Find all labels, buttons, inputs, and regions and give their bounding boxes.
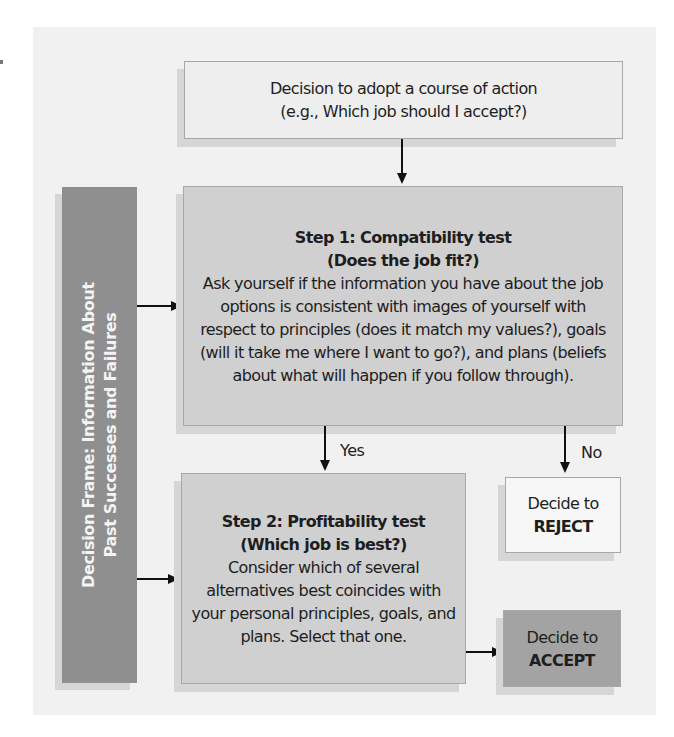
no-label: No — [581, 443, 602, 462]
accept-line2: ACCEPT — [504, 649, 620, 672]
margin-mark — [0, 60, 3, 64]
arrowhead-down-icon — [320, 460, 330, 471]
arrow-step1-no — [564, 426, 566, 464]
yes-label: Yes — [340, 441, 364, 460]
accept-node: Decide to ACCEPT — [503, 610, 621, 687]
arrowhead-right-icon — [492, 647, 503, 657]
arrowhead-right-icon — [168, 574, 179, 584]
arrowhead-down-icon — [397, 173, 407, 184]
arrow-frame-to-step1 — [137, 305, 173, 307]
arrow-decision-to-step1 — [401, 139, 403, 175]
arrowhead-down-icon — [560, 462, 570, 473]
step2-body: Consider which of several alternatives b… — [190, 556, 457, 648]
step2-profitability-node: Step 2: Profitability test (Which job is… — [181, 473, 466, 684]
decision-node: Decision to adopt a course of action (e.… — [184, 61, 623, 139]
decision-frame-line2: Past Successes and Failures — [100, 195, 122, 675]
step2-subtitle: (Which job is best?) — [190, 533, 457, 556]
step1-subtitle: (Does the job fit?) — [198, 249, 608, 272]
decision-node-line1: Decision to adopt a course of action — [185, 77, 622, 100]
step1-body: Ask yourself if the information you have… — [198, 272, 608, 387]
decision-node-line2: (e.g., Which job should I accept?) — [185, 100, 622, 123]
arrow-frame-to-step2 — [137, 578, 170, 580]
decision-frame-line1: Decision Frame: Information About — [78, 195, 100, 675]
arrow-step2-to-accept — [466, 651, 494, 653]
decision-frame-node: Decision Frame: Information About Past S… — [62, 187, 137, 683]
reject-line1: Decide to — [506, 492, 620, 515]
reject-line2: REJECT — [506, 515, 620, 538]
step2-title: Step 2: Profitability test — [190, 510, 457, 533]
step1-title: Step 1: Compatibility test — [198, 226, 608, 249]
arrowhead-right-icon — [171, 301, 182, 311]
accept-line1: Decide to — [504, 626, 620, 649]
step1-compatibility-node: Step 1: Compatibility test (Does the job… — [183, 186, 623, 426]
arrow-step1-yes — [324, 426, 326, 462]
reject-node: Decide to REJECT — [505, 477, 621, 553]
